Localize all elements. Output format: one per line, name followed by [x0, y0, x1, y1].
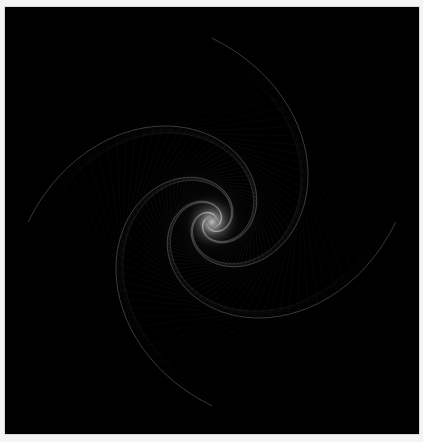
- spiral-artwork: [5, 7, 419, 434]
- spiral-core-glow: [184, 194, 240, 250]
- artwork-canvas: [5, 7, 419, 434]
